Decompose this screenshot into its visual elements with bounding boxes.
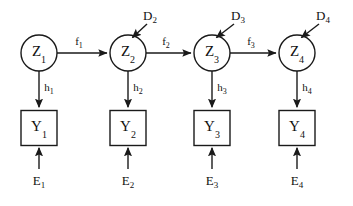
- input-label-e3: E3: [206, 172, 218, 188]
- z1-sub: 1: [41, 55, 46, 66]
- node-label-y1: Y1: [31, 118, 47, 137]
- input-label-e4: E4: [291, 172, 303, 188]
- edge-label-h1: h1: [44, 78, 54, 94]
- node-label-z4: Z4: [290, 43, 304, 62]
- e3-sub: 3: [214, 180, 219, 190]
- input-label-d2: D2: [143, 7, 157, 23]
- z4-base: Z: [290, 43, 299, 59]
- e1-base: E: [33, 173, 41, 188]
- y1-sub: 1: [42, 130, 47, 141]
- e3-base: E: [206, 173, 214, 188]
- edge-label-f2: f2: [162, 32, 170, 48]
- d3-sub: 3: [240, 15, 245, 25]
- e2-base: E: [122, 173, 130, 188]
- edge-d4-z4: [302, 24, 320, 38]
- y1-base: Y: [31, 118, 42, 134]
- z3-base: Z: [205, 43, 214, 59]
- e1-sub: 1: [41, 180, 46, 190]
- e2-sub: 2: [130, 180, 135, 190]
- h4-sub: 4: [308, 87, 312, 96]
- input-label-e2: E2: [122, 172, 134, 188]
- y4-sub: 4: [300, 130, 305, 141]
- f2-sub: 2: [166, 41, 170, 50]
- node-label-y2: Y2: [120, 118, 136, 137]
- h4-base: h: [302, 81, 308, 93]
- h3-sub: 3: [223, 87, 227, 96]
- edge-label-h3: h3: [217, 78, 227, 94]
- edge-d2-z2: [133, 24, 148, 38]
- node-label-y4: Y4: [289, 118, 305, 137]
- h1-sub: 1: [50, 87, 54, 96]
- h3-base: h: [217, 81, 223, 93]
- z2-base: Z: [121, 43, 130, 59]
- f1-sub: 1: [79, 41, 83, 50]
- z4-sub: 4: [299, 55, 304, 66]
- h1-base: h: [44, 81, 50, 93]
- edge-label-f1: f1: [75, 32, 83, 48]
- input-label-e1: E1: [33, 172, 45, 188]
- diagram-canvas: Z1 Z2 Z3 Z4 Y1 Y2 Y3 Y4 f1 f2 f3 h1 h2 h…: [0, 0, 353, 206]
- d4-base: D: [316, 8, 325, 23]
- z3-sub: 3: [214, 55, 219, 66]
- edge-label-f3: f3: [247, 32, 255, 48]
- edge-label-h4: h4: [302, 78, 312, 94]
- node-label-z1: Z1: [32, 43, 46, 62]
- y4-base: Y: [289, 118, 300, 134]
- e4-base: E: [291, 173, 299, 188]
- d2-base: D: [143, 8, 152, 23]
- z2-sub: 2: [130, 55, 135, 66]
- d4-sub: 4: [325, 15, 330, 25]
- y3-base: Y: [204, 118, 215, 134]
- node-label-z2: Z2: [121, 43, 135, 62]
- d2-sub: 2: [152, 15, 157, 25]
- node-label-z3: Z3: [205, 43, 219, 62]
- input-label-d3: D3: [231, 7, 245, 23]
- input-label-d4: D4: [316, 7, 330, 23]
- y3-sub: 3: [215, 130, 220, 141]
- node-label-y3: Y3: [204, 118, 220, 137]
- h2-sub: 2: [139, 87, 143, 96]
- y2-sub: 2: [131, 130, 136, 141]
- z1-base: Z: [32, 43, 41, 59]
- y2-base: Y: [120, 118, 131, 134]
- d3-base: D: [231, 8, 240, 23]
- h2-base: h: [133, 81, 139, 93]
- edge-label-h2: h2: [133, 78, 143, 94]
- edge-d3-z3: [217, 24, 235, 38]
- e4-sub: 4: [299, 180, 304, 190]
- f3-sub: 3: [251, 41, 255, 50]
